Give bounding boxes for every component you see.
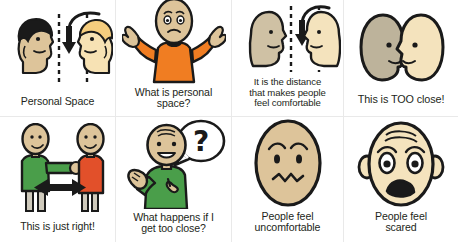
profile-face-blonde-hair	[78, 20, 112, 73]
card-just-right[interactable]: This is just right!	[0, 117, 116, 242]
profile-face-right	[304, 12, 340, 66]
card-caption: It is the distance that makes people fee…	[232, 77, 343, 116]
person-green-shirt	[22, 124, 82, 211]
illustration-just-right	[6, 123, 110, 215]
frowning-mouth	[387, 181, 414, 197]
art-shrugging-person-orange-shirt	[116, 0, 231, 87]
card-personal-space[interactable]: Personal Space	[0, 0, 116, 117]
illustration-uncomfortable-face	[245, 119, 331, 209]
card-caption: This is TOO close!	[344, 94, 458, 116]
illustration-question-person: ?	[121, 119, 227, 209]
card-caption: This is just right!	[0, 221, 115, 242]
art-two-profiles-arrow-dashed-lines	[232, 0, 343, 77]
card-caption: People feel uncomfortable	[232, 211, 343, 242]
card-people-feel-scared[interactable]: People feel scared	[344, 117, 458, 242]
card-caption: What happens if I get too close?	[116, 212, 231, 242]
illustration-personal-space	[3, 6, 113, 90]
art-person-question-bubble: ?	[116, 117, 231, 212]
torso-shirt	[154, 42, 194, 82]
head	[156, 0, 192, 43]
card-caption: Personal Space	[0, 96, 115, 116]
art-two-egg-heads-touching	[344, 0, 458, 94]
personal-space-card-board: Personal Space	[0, 0, 458, 242]
art-two-people-double-arrow	[0, 117, 115, 221]
card-too-close[interactable]: This is TOO close!	[344, 0, 458, 117]
illustration-scared-face	[354, 119, 448, 209]
open-hand	[128, 170, 147, 189]
outstretched-arm	[46, 163, 72, 173]
profile-face-left	[249, 12, 285, 66]
left-hand	[122, 27, 139, 47]
right-hand	[209, 27, 226, 47]
illustration-shrugging-person	[122, 0, 226, 86]
illustration-too-close	[351, 9, 451, 85]
art-uncomfortable-face	[232, 117, 343, 211]
egg-head	[256, 121, 320, 205]
left-eye	[274, 154, 280, 163]
card-it-is-the-distance[interactable]: It is the distance that makes people fee…	[232, 0, 344, 117]
right-eye	[296, 154, 302, 163]
profile-face-dark-hair	[18, 19, 52, 73]
egg-head-cream	[397, 15, 443, 80]
head	[147, 125, 185, 165]
question-mark-glyph: ?	[192, 125, 208, 158]
card-what-is-personal-space[interactable]: What is personal space?	[116, 0, 232, 117]
card-caption: People feel scared	[344, 211, 458, 242]
card-people-feel-uncomfortable[interactable]: People feel uncomfortable	[232, 117, 344, 242]
card-grid: Personal Space	[0, 0, 458, 242]
card-what-happens-if-too-close[interactable]: ?	[116, 117, 232, 242]
card-caption: What is personal space?	[116, 87, 231, 116]
art-scared-face	[344, 117, 458, 211]
illustration-distance	[235, 4, 341, 74]
person-red-shirt	[77, 124, 103, 211]
art-two-profiles-arrow-dashed-lines	[0, 0, 115, 96]
